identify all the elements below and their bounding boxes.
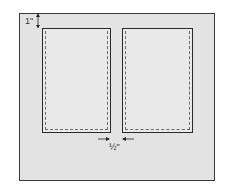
dimension-arrows [0,0,226,194]
gap-label: ½" [109,143,120,152]
top-margin-label: 1" [25,17,33,26]
gap-arrow-icon [98,137,134,141]
top-margin-arrow-icon [36,14,40,29]
